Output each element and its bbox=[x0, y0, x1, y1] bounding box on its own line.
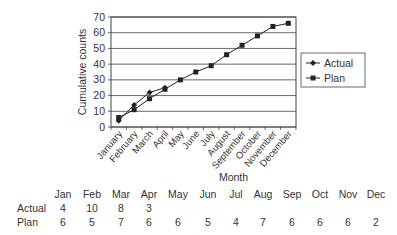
table-header-cell: Jul bbox=[221, 188, 251, 200]
table-cell: 4 bbox=[221, 216, 251, 228]
data-point-plan bbox=[286, 21, 291, 26]
table-header-cell: Jun bbox=[193, 188, 223, 200]
y-tick-label: 10 bbox=[93, 105, 105, 117]
y-tick-label: 50 bbox=[93, 42, 105, 54]
table-cell: 6 bbox=[48, 216, 78, 228]
y-axis-title: Cumulative counts bbox=[76, 29, 88, 115]
table-header-cell: Nov bbox=[333, 188, 363, 200]
table-header-cell: Dec bbox=[361, 188, 391, 200]
data-point-plan bbox=[193, 70, 198, 75]
table-header-cell: Apr bbox=[134, 188, 164, 200]
y-tick-label: 30 bbox=[93, 73, 105, 85]
table-cell: 5 bbox=[77, 216, 107, 228]
table-cell: 7 bbox=[248, 216, 278, 228]
plot-area bbox=[111, 17, 296, 127]
data-point-plan bbox=[255, 33, 260, 38]
table-cell: 7 bbox=[106, 216, 136, 228]
table-cell: 5 bbox=[193, 216, 223, 228]
table-header-cell: May bbox=[163, 188, 193, 200]
y-tick-label: 0 bbox=[99, 121, 105, 133]
table-cell: 10 bbox=[77, 202, 107, 214]
y-tick-label: 40 bbox=[93, 58, 105, 70]
legend-marker-plan bbox=[311, 76, 316, 81]
data-point-plan bbox=[147, 96, 152, 101]
data-point-plan bbox=[224, 52, 229, 57]
cumulative-line-chart: 010203040506070JanuaryFebruaryMarchApril… bbox=[0, 0, 397, 185]
data-point-plan bbox=[178, 77, 183, 82]
table-cell: 6 bbox=[333, 216, 363, 228]
data-point-plan bbox=[132, 107, 137, 112]
data-point-plan bbox=[116, 115, 121, 120]
data-point-plan bbox=[270, 24, 275, 29]
y-tick-label: 20 bbox=[93, 89, 105, 101]
table-cell: 2 bbox=[361, 216, 391, 228]
legend-label-plan: Plan bbox=[324, 72, 345, 84]
table-cell: 4 bbox=[48, 202, 78, 214]
table-cell: 6 bbox=[277, 216, 307, 228]
table-cell: 6 bbox=[134, 216, 164, 228]
legend-label-actual: Actual bbox=[324, 57, 353, 69]
table-cell: 6 bbox=[163, 216, 193, 228]
y-tick-label: 70 bbox=[93, 11, 105, 23]
table-cell: 8 bbox=[106, 202, 136, 214]
data-point-plan bbox=[209, 63, 214, 68]
table-header-cell: Aug bbox=[248, 188, 278, 200]
table-header-cell: Oct bbox=[305, 188, 335, 200]
data-point-plan bbox=[162, 87, 167, 92]
table-header-cell: Feb bbox=[77, 188, 107, 200]
table-header-cell: Sep bbox=[277, 188, 307, 200]
table-header-cell: Jan bbox=[48, 188, 78, 200]
x-axis-title: Month bbox=[219, 171, 248, 183]
table-cell: 6 bbox=[305, 216, 335, 228]
series-line-plan bbox=[119, 23, 289, 117]
data-point-plan bbox=[240, 43, 245, 48]
y-tick-label: 60 bbox=[93, 26, 105, 38]
table-cell: 3 bbox=[134, 202, 164, 214]
table-header-cell: Mar bbox=[106, 188, 136, 200]
